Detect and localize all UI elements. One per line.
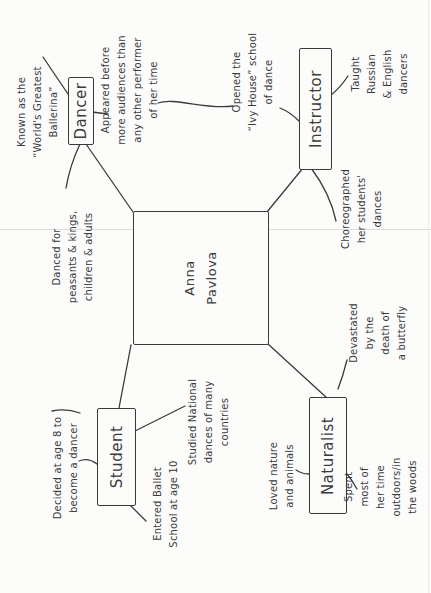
edge-instructor-center xyxy=(267,168,303,212)
pointer-appeared-opened xyxy=(158,101,233,106)
note-studied-national-dances: Studied National dances of many countrie… xyxy=(185,379,233,465)
node-dancer: Dancer xyxy=(68,77,94,145)
pointer-choreographed xyxy=(311,168,336,221)
note-appeared-before-audiences: Appeared before more audiences than any … xyxy=(98,35,162,145)
anna-pavlova-label: Anna Pavlova xyxy=(179,251,223,305)
student-label: Student xyxy=(108,426,126,489)
instructor-label: Instructor xyxy=(307,70,325,148)
pointer-decided-a xyxy=(52,410,80,413)
pointer-danced xyxy=(66,144,80,188)
note-opened-ivy-house: Opened the “Ivy House” school of dance xyxy=(229,33,277,132)
edge-student-center xyxy=(119,345,131,408)
concept-map: Anna Pavlova Dancer Instructor Student N… xyxy=(0,0,431,593)
note-known-as-ballerina: Known as the “World's Greatest Ballerina… xyxy=(14,66,62,158)
dancer-label: Dancer xyxy=(72,83,90,140)
pointer-taught xyxy=(331,76,348,95)
note-loved-nature-animals: Loved nature and animals xyxy=(266,442,298,510)
note-choreographed-dances: Choreographed her students' dances xyxy=(338,169,386,249)
pointer-devastated xyxy=(338,360,347,389)
node-anna-pavlova: Anna Pavlova xyxy=(133,211,269,345)
naturalist-label: Naturalist xyxy=(319,416,337,494)
node-student: Student xyxy=(97,408,136,506)
pointer-opened xyxy=(280,108,299,121)
note-devastated-butterfly: Devastated by the death of a butterfly xyxy=(346,303,410,363)
scan-artifact-edge xyxy=(428,0,429,593)
pointer-studied xyxy=(133,406,185,432)
note-entered-ballet-school: Entered Ballet School at age 10 xyxy=(150,460,182,547)
node-instructor: Instructor xyxy=(299,48,332,170)
note-taught-dancers: Taught Russian & English dancers xyxy=(348,49,412,100)
note-danced-for-peasants-kings: Danced for peasants & kings, children & … xyxy=(49,211,97,304)
edge-dancer-center xyxy=(86,144,133,212)
note-decided-age-8: Decided at age 8 to become a dancer xyxy=(50,417,82,520)
note-spent-time-outdoors: Spent most of her time outdoors/in the w… xyxy=(341,458,421,517)
edge-naturalist-center xyxy=(268,344,327,398)
